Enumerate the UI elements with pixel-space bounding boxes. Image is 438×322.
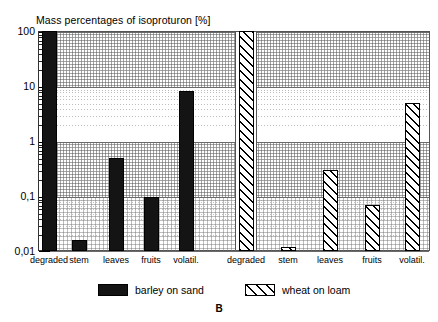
- minor-gridline: [39, 104, 429, 105]
- major-gridline: [39, 197, 429, 198]
- minor-gridline: [39, 92, 429, 93]
- y-axis-major-tick: [39, 251, 50, 252]
- minor-gridline: [39, 151, 429, 152]
- panel-letter: B: [0, 303, 438, 314]
- bar[interactable]: [323, 170, 338, 251]
- x-axis-tick-label: leaves: [103, 255, 129, 265]
- x-axis-tick-label: stem: [278, 255, 298, 265]
- chart-title: Mass percentages of isoproturon [%]: [36, 14, 211, 26]
- legend-item-wheat: wheat on loam: [245, 284, 350, 296]
- minor-gridline: [39, 54, 429, 55]
- x-axis-tick-label: volatil.: [399, 255, 425, 265]
- minor-gridline: [39, 159, 429, 160]
- minor-gridline: [39, 202, 429, 203]
- minor-gridline: [39, 37, 429, 38]
- bar[interactable]: [179, 91, 194, 251]
- minor-gridline: [39, 35, 429, 36]
- bar[interactable]: [42, 31, 57, 251]
- major-gridline: [39, 251, 429, 252]
- major-gridline: [39, 142, 429, 143]
- minor-gridline: [39, 109, 429, 110]
- x-axis-tick-label: degraded: [227, 255, 265, 265]
- y-axis-tick-labels: 1001010,10,01: [0, 0, 35, 322]
- x-axis-tick-label: fruits: [362, 255, 382, 265]
- x-axis-tick-label: stem: [69, 255, 89, 265]
- minor-gridline: [39, 61, 429, 62]
- minor-gridline: [39, 70, 429, 71]
- bar[interactable]: [239, 31, 254, 251]
- y-axis-tick-label: 10: [23, 80, 35, 92]
- bar[interactable]: [281, 247, 296, 251]
- x-axis-tick-label: degraded: [30, 255, 68, 265]
- minor-gridline: [39, 200, 429, 201]
- minor-gridline: [39, 147, 429, 148]
- minor-gridline: [39, 125, 429, 126]
- bar[interactable]: [405, 103, 420, 251]
- x-axis-tick-label: fruits: [141, 255, 161, 265]
- minor-gridline: [39, 44, 429, 45]
- y-axis-tick-label: 1: [29, 135, 35, 147]
- legend-label-barley: barley on sand: [135, 284, 204, 296]
- x-axis-tick-label: leaves: [317, 255, 343, 265]
- minor-gridline: [39, 164, 429, 165]
- minor-gridline: [39, 171, 429, 172]
- minor-gridline: [39, 49, 429, 50]
- minor-gridline: [39, 41, 429, 42]
- major-gridline: [39, 32, 429, 33]
- minor-gridline: [39, 180, 429, 181]
- minor-gridline: [39, 96, 429, 97]
- x-axis-tick-label: volatil.: [173, 255, 199, 265]
- y-axis-tick-label: 100: [17, 25, 35, 37]
- minor-gridline: [39, 145, 429, 146]
- legend-label-wheat: wheat on loam: [282, 284, 350, 296]
- legend-swatch-hatch-icon: [245, 284, 275, 296]
- major-gridline: [39, 87, 429, 88]
- legend-item-barley: barley on sand: [98, 284, 204, 296]
- minor-gridline: [39, 154, 429, 155]
- bar[interactable]: [365, 205, 380, 251]
- bar[interactable]: [144, 197, 159, 251]
- chart-figure: Mass percentages of isoproturon [%] 1001…: [0, 0, 438, 322]
- y-axis-tick-label: 0,1: [20, 190, 35, 202]
- minor-gridline: [39, 116, 429, 117]
- chart-legend: barley on sand wheat on loam: [0, 281, 438, 303]
- bar[interactable]: [72, 240, 87, 251]
- legend-swatch-solid-icon: [98, 284, 128, 296]
- minor-gridline: [39, 99, 429, 100]
- minor-gridline: [39, 90, 429, 91]
- bar[interactable]: [109, 158, 124, 251]
